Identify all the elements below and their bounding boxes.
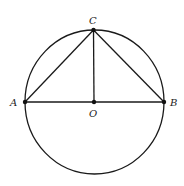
geometry-diagram: A B C O xyxy=(0,0,184,186)
point-B xyxy=(162,100,166,104)
segment-CO xyxy=(94,30,95,102)
label-B: B xyxy=(169,97,177,108)
segment-BC xyxy=(94,30,165,102)
point-O xyxy=(92,100,96,104)
label-A: A xyxy=(9,97,17,108)
label-O: O xyxy=(89,108,97,119)
segment-AC xyxy=(25,30,94,102)
label-C: C xyxy=(89,15,97,26)
point-C xyxy=(91,28,95,32)
point-A xyxy=(23,100,27,104)
